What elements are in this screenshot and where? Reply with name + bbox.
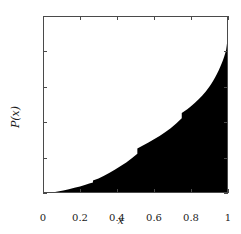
y-tick-mark — [43, 51, 47, 52]
y-tick-mark — [43, 122, 47, 123]
x-tick-mark — [117, 189, 118, 193]
figure: P(x) 00.20.40.60.81 00.20.40.60.81 x — [0, 0, 241, 234]
x-tick-mark — [43, 16, 44, 20]
y-tick-mark — [224, 87, 228, 88]
y-tick-mark — [224, 51, 228, 52]
x-axis-label: x — [0, 214, 241, 227]
plot-area: 00.20.40.60.81 00.20.40.60.81 — [43, 16, 228, 193]
x-tick-mark — [228, 189, 229, 193]
y-axis-label: P(x) — [9, 106, 22, 128]
y-tick-mark — [224, 122, 228, 123]
x-tick-mark — [154, 189, 155, 193]
x-tick-mark — [80, 16, 81, 20]
x-tick-mark — [191, 189, 192, 193]
y-tick-mark — [224, 193, 228, 194]
axes-frame — [43, 16, 228, 193]
x-tick-mark — [228, 16, 229, 20]
x-tick-mark — [80, 189, 81, 193]
x-tick-mark — [154, 16, 155, 20]
y-tick-mark — [224, 158, 228, 159]
x-tick-mark — [191, 16, 192, 20]
y-tick-mark — [43, 87, 47, 88]
x-tick-mark — [43, 189, 44, 193]
x-tick-mark — [117, 16, 118, 20]
y-tick-mark — [43, 193, 47, 194]
y-tick-mark — [43, 158, 47, 159]
